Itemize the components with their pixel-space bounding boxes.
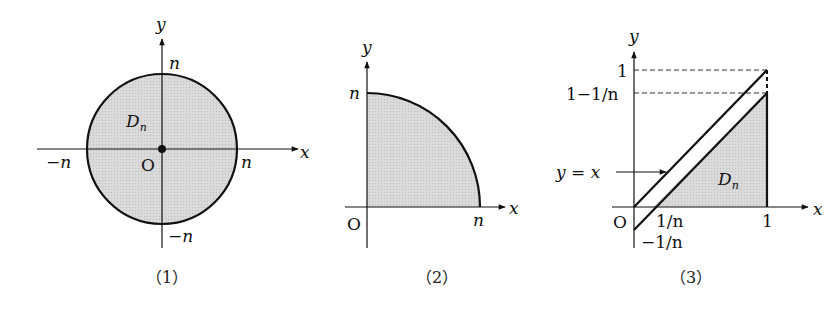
y-axis-label: y bbox=[155, 14, 166, 34]
tick-y-one-minus-one-over-n: 1−1/n bbox=[566, 84, 619, 104]
tick-y-one: 1 bbox=[617, 61, 628, 81]
tick-x-neg: −n bbox=[46, 152, 71, 172]
caption-3: （3） bbox=[670, 268, 712, 287]
origin-label: O bbox=[141, 155, 155, 175]
tick-x-pos: n bbox=[473, 210, 484, 230]
tick-x-pos: n bbox=[241, 152, 252, 172]
figure-canvas: y x n −n −n n O Dn （1） y x n n O （2） bbox=[0, 0, 834, 309]
y-axis-label: y bbox=[628, 26, 639, 46]
caption-1: （1） bbox=[146, 268, 188, 287]
caption-2: （2） bbox=[416, 268, 458, 287]
tick-x-one-over-n: 1/n bbox=[656, 211, 684, 231]
tick-y-pos: n bbox=[169, 53, 180, 73]
x-axis-label: x bbox=[300, 142, 310, 162]
figure-3: y x 1 1−1/n 1/n 1 −1/n O y = x Dn （3） bbox=[555, 26, 823, 287]
tick-y-neg-one-over-n: −1/n bbox=[641, 232, 683, 252]
x-axis-label: x bbox=[813, 199, 823, 219]
quarter-disk-region bbox=[367, 93, 480, 207]
origin-dot bbox=[158, 145, 166, 153]
y-axis-label: y bbox=[361, 37, 372, 57]
tick-x-one: 1 bbox=[762, 211, 773, 231]
origin-label: O bbox=[613, 212, 627, 232]
tick-y-neg: −n bbox=[168, 226, 193, 246]
x-axis-label: x bbox=[509, 198, 519, 218]
line-label-y-equals-x: y = x bbox=[555, 162, 601, 182]
figure-1: y x n −n −n n O Dn （1） bbox=[37, 14, 310, 287]
figure-2: y x n n O （2） bbox=[345, 37, 519, 287]
tick-y-pos: n bbox=[349, 83, 360, 103]
origin-label: O bbox=[347, 214, 361, 234]
